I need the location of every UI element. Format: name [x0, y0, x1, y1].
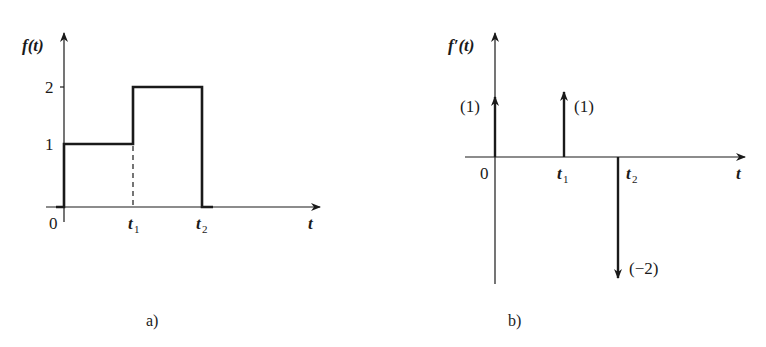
svg-text:1: 1 [134, 223, 140, 235]
impulse-weight-t2: (−2) [629, 259, 658, 278]
y-tick-label-2: 2 [45, 78, 54, 97]
x-tick-label-t2-b: t 2 [626, 164, 638, 185]
svg-text:2: 2 [632, 173, 638, 185]
y-axis-label-b: f′(t) [448, 36, 475, 55]
caption-a: a) [146, 312, 158, 330]
impulse-weight-t1: (1) [574, 97, 594, 116]
chart-b: f′(t) (1) (1) (−2) 0 t 1 t 2 t b) [448, 33, 745, 330]
x-tick-label-t2-a: t 2 [196, 214, 208, 235]
impulse-weight-0: (1) [460, 97, 480, 116]
origin-label-a: 0 [49, 214, 58, 233]
svg-text:1: 1 [563, 173, 569, 185]
x-tick-label-t1-b: t 1 [557, 164, 569, 185]
y-tick-label-1: 1 [45, 135, 54, 154]
origin-label-b: 0 [480, 164, 489, 183]
figure-canvas: f(t) 2 1 0 t 1 t 2 t a) f′(t) (1) (1) (−… [0, 0, 766, 347]
x-axis-label-b: t [736, 164, 742, 183]
svg-text:2: 2 [202, 223, 208, 235]
chart-a: f(t) 2 1 0 t 1 t 2 t a) [22, 33, 320, 330]
signal-f [56, 87, 213, 207]
x-axis-label-a: t [308, 214, 314, 233]
x-tick-label-t1-a: t 1 [128, 214, 140, 235]
caption-b: b) [508, 312, 521, 330]
y-axis-label-a: f(t) [22, 36, 44, 55]
